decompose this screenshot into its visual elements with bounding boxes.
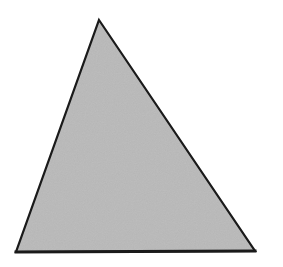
triangle-figure-svg	[0, 0, 283, 267]
triangle-base-edge	[16, 251, 255, 252]
figure-canvas	[0, 0, 283, 267]
